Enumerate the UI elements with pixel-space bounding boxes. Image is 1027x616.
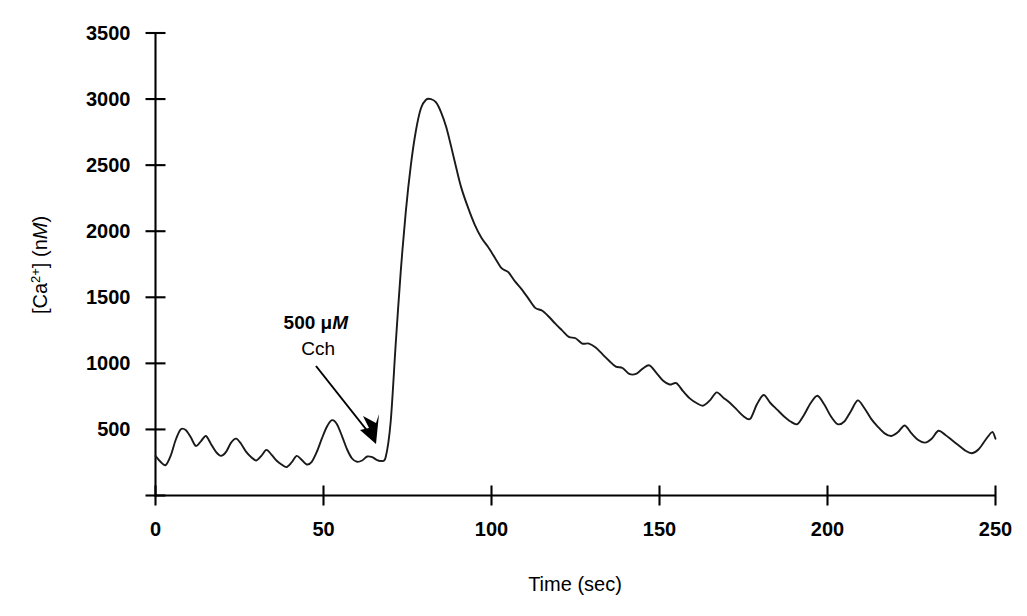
y-tick-label-1500: 1500 <box>86 286 131 308</box>
x-tick-label-200: 200 <box>811 518 844 540</box>
x-tick-label-50: 50 <box>312 518 334 540</box>
x-tick-label-100: 100 <box>475 518 508 540</box>
x-tick-label-150: 150 <box>643 518 676 540</box>
y-tick-label-500: 500 <box>97 418 130 440</box>
y-tick-label-1000: 1000 <box>86 352 131 374</box>
data-trace-line <box>156 99 996 467</box>
x-tick-label-250: 250 <box>979 518 1012 540</box>
y-axis-tick-labels: 500100015002000250030003500 <box>86 22 131 440</box>
annotation-arrow-shaft <box>316 366 369 433</box>
y-axis-title: [Ca2+] (nM) <box>28 216 52 314</box>
y-tick-label-3000: 3000 <box>86 88 131 110</box>
y-tick-label-2500: 2500 <box>86 154 131 176</box>
y-tick-label-2000: 2000 <box>86 220 131 242</box>
annotation-line-2: Cch <box>301 338 335 359</box>
annotation-line-1: 500 μM <box>284 312 350 333</box>
annotation-arrow-head <box>360 414 379 444</box>
calcium-trace-chart: 500100015002000250030003500 050100150200… <box>0 0 1027 616</box>
x-axis-tick-labels: 050100150200250 <box>150 518 1012 540</box>
x-tick-label-0: 0 <box>150 518 161 540</box>
figure-container: 500100015002000250030003500 050100150200… <box>0 0 1027 616</box>
y-tick-label-3500: 3500 <box>86 22 131 44</box>
x-axis-title: Time (sec) <box>528 573 622 595</box>
